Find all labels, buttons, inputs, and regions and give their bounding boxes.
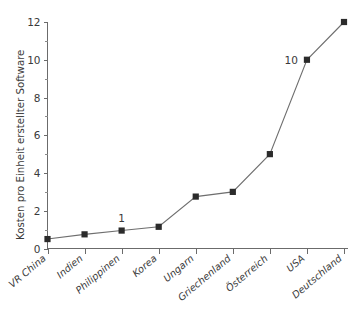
y-tick-label: 8: [34, 92, 41, 104]
data-point-marker: [119, 227, 125, 233]
data-point-label: 1: [118, 212, 125, 224]
x-tick-label: Indien: [55, 253, 85, 281]
data-point-annotations: 110: [118, 54, 298, 224]
x-tick-label: Ungarn: [161, 253, 196, 284]
x-axis-tick-labels: VR ChinaIndienPhilippinenKoreaUngarnGrie…: [7, 252, 345, 303]
y-axis-label: Kosten pro Einheit erstellter Software: [15, 50, 26, 240]
x-tick-label: USA: [284, 252, 307, 274]
x-tick-label: VR China: [7, 253, 48, 290]
y-tick-label: 4: [34, 167, 41, 179]
data-point-label: 10: [285, 54, 298, 66]
y-tick-label: 12: [27, 16, 40, 28]
y-tick-label: 6: [34, 129, 41, 141]
y-axis-ticks: 024681012: [27, 16, 47, 255]
series-polyline: [48, 22, 345, 239]
data-point-marker: [230, 189, 236, 195]
data-point-marker: [304, 57, 310, 63]
data-point-markers: [44, 19, 347, 242]
data-point-marker: [81, 231, 87, 237]
line-chart: Kosten pro Einheit erstellter Software 0…: [0, 0, 362, 320]
x-axis-ticks: [49, 249, 345, 254]
chart-figure: Kosten pro Einheit erstellter Software 0…: [0, 0, 362, 320]
data-point-marker: [156, 224, 162, 230]
data-point-marker: [193, 193, 199, 199]
data-series-line: [48, 22, 345, 239]
data-point-marker: [341, 19, 347, 25]
data-point-marker: [267, 151, 273, 157]
data-point-marker: [44, 236, 50, 242]
y-tick-label: 2: [34, 205, 41, 217]
x-tick-label: Korea: [130, 253, 159, 280]
y-tick-label: 10: [27, 54, 40, 66]
